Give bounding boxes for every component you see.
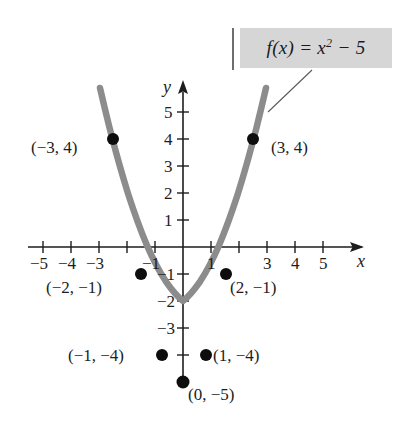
graph-figure: f(x) = x2 − 5 y x −5 −4 −3 −1 1 3 4 5 5 … [0, 0, 410, 442]
formula-callout-box: f(x) = x2 − 5 [240, 28, 392, 68]
y-tick-label-neg1: −1 [157, 266, 175, 283]
x-axis [28, 242, 364, 252]
data-point [247, 133, 259, 145]
data-point [200, 349, 212, 361]
callout-leader-line [268, 70, 312, 112]
data-point [156, 349, 168, 361]
point-label-neg3-4: (−3, 4) [31, 139, 77, 156]
x-tick-label-5: 5 [319, 255, 328, 272]
y-tick-label-neg3: −3 [157, 320, 175, 337]
y-tick-label-1: 1 [164, 212, 173, 229]
y-tick-label-4: 4 [164, 131, 173, 148]
x-tick-label-4: 4 [291, 255, 300, 272]
x-tick-label-neg5: −5 [30, 255, 48, 272]
point-label-1-neg4: (1, −4) [213, 347, 259, 364]
y-tick-label-2: 2 [164, 185, 173, 202]
point-label-neg1-neg4: (−1, −4) [68, 347, 124, 364]
y-tick-label-5: 5 [164, 104, 173, 121]
point-label-neg2-neg1: (−2, −1) [46, 279, 102, 296]
data-point [107, 133, 119, 145]
x-tick-label-3: 3 [263, 255, 272, 272]
formula-text: f(x) = x2 − 5 [267, 36, 366, 59]
y-tick-label-3: 3 [164, 158, 173, 175]
point-label-0-neg5: (0, −5) [188, 386, 234, 403]
point-label-2-neg1: (2, −1) [230, 279, 276, 296]
y-axis [178, 80, 188, 383]
y-axis-label: y [163, 78, 171, 96]
x-tick-label-neg4: −4 [58, 255, 76, 272]
x-tick-label-1: 1 [207, 255, 216, 272]
y-tick-label-neg2: −2 [157, 293, 175, 310]
point-label-3-4: (3, 4) [271, 139, 308, 156]
callout-left-rule [232, 28, 234, 70]
x-axis-label: x [357, 252, 365, 270]
x-tick-label-neg3: −3 [86, 255, 104, 272]
